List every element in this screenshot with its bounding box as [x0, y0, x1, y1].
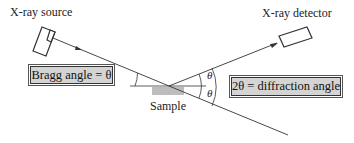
- xray-detector-icon: [279, 27, 312, 47]
- diffraction-angle-box: 2θ = diffraction angle: [231, 77, 341, 96]
- sample-label: Sample: [150, 100, 186, 112]
- xray-source-icon: [33, 27, 55, 56]
- xray-detector-label: X-ray detector: [262, 7, 332, 19]
- two-theta-arc: [212, 68, 216, 106]
- theta-lower-label: θ: [207, 87, 212, 99]
- incident-arrow-icon: [75, 46, 82, 50]
- bragg-angle-arc: [135, 73, 138, 86]
- xray-diffraction-diagram: X-ray source X-ray detector Sample θ θ B…: [0, 0, 354, 143]
- sample-layers: [152, 88, 184, 94]
- theta-upper-label: θ: [207, 69, 212, 81]
- diffracted-arrow-icon: [270, 43, 278, 48]
- xray-source-label: X-ray source: [10, 6, 72, 18]
- bragg-angle-box: Bragg angle = θ: [30, 66, 113, 84]
